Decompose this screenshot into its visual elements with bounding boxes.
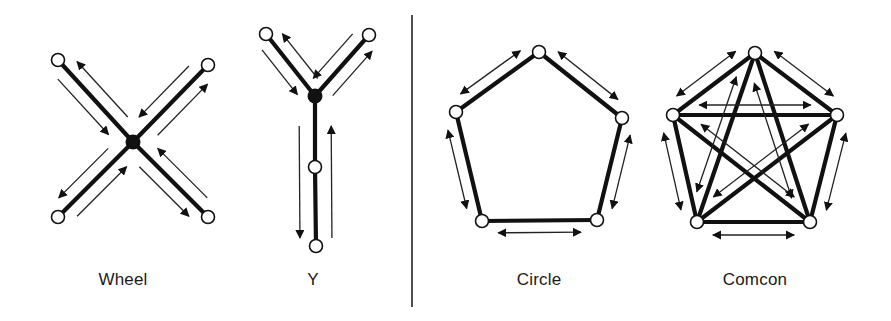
label-circle: Circle xyxy=(517,270,562,290)
member-node xyxy=(310,240,323,253)
hub-node xyxy=(308,89,323,104)
channel-line xyxy=(133,65,208,142)
channel-line xyxy=(597,118,622,220)
member-node xyxy=(667,109,680,122)
hub-node xyxy=(126,135,141,150)
message-arrow xyxy=(313,34,352,79)
member-node xyxy=(202,211,215,224)
member-node xyxy=(831,109,844,122)
message-arrow xyxy=(299,126,300,238)
two-way-arrow xyxy=(498,232,581,233)
member-node xyxy=(591,214,604,227)
label-wheel: Wheel xyxy=(98,270,147,290)
member-node xyxy=(363,29,376,42)
member-node xyxy=(804,216,817,229)
channel-line xyxy=(456,52,539,112)
member-node xyxy=(691,216,704,229)
label-y: Y xyxy=(307,270,319,290)
channel-line xyxy=(539,52,622,118)
message-arrow xyxy=(333,51,372,96)
member-node xyxy=(52,211,65,224)
channel-line xyxy=(315,35,369,96)
channel-line xyxy=(697,53,755,222)
channel-line xyxy=(456,112,482,221)
message-arrow xyxy=(262,50,297,95)
channel-line xyxy=(58,142,133,217)
channel-line xyxy=(755,53,837,115)
channel-line xyxy=(482,220,597,221)
member-node xyxy=(749,47,762,60)
member-node xyxy=(616,112,629,125)
channel-line xyxy=(133,142,208,217)
member-node xyxy=(260,28,273,41)
member-node xyxy=(52,54,65,67)
message-arrow xyxy=(282,34,317,79)
member-node xyxy=(450,106,463,119)
member-node xyxy=(533,46,546,59)
network-edges xyxy=(58,34,837,246)
member-node xyxy=(202,59,215,72)
channel-line xyxy=(58,60,133,142)
label-comcon: Comcon xyxy=(723,270,788,290)
member-node xyxy=(309,161,322,174)
channel-line xyxy=(315,167,316,246)
channel-line xyxy=(755,53,810,222)
message-arrow xyxy=(331,126,332,238)
member-node xyxy=(476,215,489,228)
